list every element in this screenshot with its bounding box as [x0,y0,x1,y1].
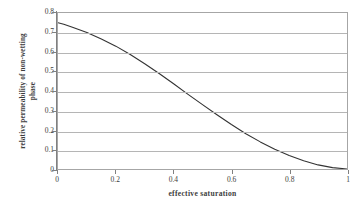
x-tick-label: 0.6 [227,176,236,184]
x-axis-title: effective saturation [57,189,348,198]
gridline [58,72,347,73]
y-axis-tick-labels: 00.10.20.30.40.50.60.70.8 [30,12,54,170]
x-tick-mark [348,170,349,174]
x-tick-mark [232,170,233,174]
plot-area [57,12,348,170]
y-tick-mark [52,111,57,112]
y-tick-label: 0.8 [30,8,54,16]
y-tick-mark [52,71,57,72]
y-tick-label: 0.1 [30,147,54,155]
x-tick-label: 1 [346,176,350,184]
y-tick-mark [52,131,57,132]
x-tick-label: 0.8 [285,176,294,184]
x-tick-mark [57,170,58,174]
y-axis-title-line1: relative permeability of non-wetting [18,33,28,149]
y-tick-mark [52,150,57,151]
x-tick-label: 0.2 [111,176,120,184]
x-tick-label: 0.4 [169,176,178,184]
y-tick-label: 0.4 [30,87,54,95]
gridline [58,92,347,93]
y-tick-label: 0.2 [30,127,54,135]
plot-inner [58,13,347,169]
y-tick-label: 0.6 [30,48,54,56]
y-tick-label: 0.3 [30,107,54,115]
gridline [58,112,347,113]
y-tick-mark [52,12,57,13]
y-tick-label: 0 [30,166,54,174]
gridline [58,53,347,54]
x-tick-label: 0 [55,176,59,184]
y-tick-mark [52,91,57,92]
x-tick-mark [173,170,174,174]
y-tick-label: 0.7 [30,28,54,36]
y-tick-mark [52,52,57,53]
y-tick-mark [52,32,57,33]
gridline [58,132,347,133]
x-tick-mark [290,170,291,174]
gridline [58,33,347,34]
y-tick-label: 0.5 [30,68,54,76]
gridline [58,151,347,152]
chart-container: relative permeability of non-wetting pha… [0,0,359,206]
permeability-curve [58,13,347,169]
x-tick-mark [115,170,116,174]
